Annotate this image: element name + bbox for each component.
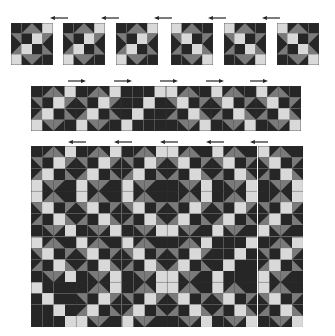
arrow-left-icon bbox=[250, 140, 268, 144]
quilt-block bbox=[212, 146, 257, 191]
quilt-block bbox=[212, 237, 257, 282]
quilt-block bbox=[122, 191, 167, 236]
quilt-block bbox=[258, 237, 303, 282]
arrow-left-icon bbox=[50, 16, 68, 20]
arrow-right-icon bbox=[68, 79, 86, 83]
arrow-right-icon bbox=[160, 79, 178, 83]
arrow-right-icon bbox=[114, 79, 132, 83]
quilt-block bbox=[258, 191, 303, 236]
arrow-left-icon bbox=[160, 140, 178, 144]
quilt-block bbox=[167, 282, 212, 327]
quilt-block bbox=[116, 23, 158, 65]
quilt-block bbox=[167, 237, 212, 282]
quilt-block bbox=[212, 191, 257, 236]
quilt-block bbox=[224, 23, 266, 65]
arrow-right-icon bbox=[250, 79, 268, 83]
arrow-right-icon bbox=[206, 79, 224, 83]
quilt-block bbox=[63, 23, 105, 65]
quilt-block bbox=[212, 282, 257, 327]
quilt-block bbox=[11, 23, 53, 65]
quilt-block bbox=[31, 282, 76, 327]
quilt-block bbox=[31, 237, 76, 282]
arrow-left-icon bbox=[206, 140, 224, 144]
quilt-block bbox=[122, 237, 167, 282]
quilt-block bbox=[76, 282, 121, 327]
arrow-left-icon bbox=[68, 140, 86, 144]
quilt-block bbox=[258, 282, 303, 327]
quilt-block bbox=[76, 146, 121, 191]
quilt-block bbox=[122, 146, 167, 191]
quilt-block bbox=[167, 146, 212, 191]
quilt-block bbox=[76, 86, 121, 131]
quilt-block bbox=[277, 23, 319, 65]
quilt-block bbox=[122, 282, 167, 327]
quilt-block bbox=[171, 23, 213, 65]
quilt-block bbox=[76, 237, 121, 282]
quilt-block bbox=[121, 86, 166, 131]
quilt-block bbox=[166, 86, 211, 131]
quilt-block bbox=[31, 191, 76, 236]
quilt-block bbox=[258, 146, 303, 191]
arrow-left-icon bbox=[114, 140, 132, 144]
arrow-left-icon bbox=[208, 16, 226, 20]
arrow-left-icon bbox=[101, 16, 119, 20]
quilt-block bbox=[31, 86, 76, 131]
quilt-block bbox=[31, 146, 76, 191]
arrow-left-icon bbox=[154, 16, 172, 20]
quilt-block bbox=[76, 191, 121, 236]
arrow-left-icon bbox=[262, 16, 280, 20]
quilt-block bbox=[256, 86, 301, 131]
quilt-block bbox=[167, 191, 212, 236]
quilt-block bbox=[211, 86, 256, 131]
